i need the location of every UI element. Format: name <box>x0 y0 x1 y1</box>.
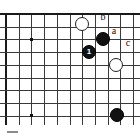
white-stone-lower[interactable] <box>109 58 123 72</box>
black-stone-move-1[interactable]: 1 <box>82 45 96 59</box>
black-stone-upper[interactable] <box>96 32 110 46</box>
grid-line-horizontal-0 <box>0 13 140 15</box>
go-board[interactable]: 1 bac <box>0 0 140 125</box>
grid-line-horizontal-6 <box>0 90 140 91</box>
grid-line-horizontal-5 <box>0 78 140 79</box>
white-stone-upper[interactable] <box>75 17 89 31</box>
star-point-upper-left <box>30 38 33 41</box>
grid-line-vertical-3 <box>44 13 45 125</box>
star-point-lower-left <box>30 114 33 117</box>
caption-rule <box>7 131 18 133</box>
grid-line-vertical-1 <box>19 13 20 125</box>
grid-line-horizontal-2 <box>0 39 140 40</box>
grid-line-vertical-10 <box>133 13 134 125</box>
grid-line-vertical-7 <box>95 13 96 125</box>
point-label-a: a <box>109 26 119 36</box>
grid-line-vertical-2 <box>31 13 32 125</box>
grid-line-horizontal-1 <box>0 27 140 28</box>
point-label-b: b <box>98 12 108 22</box>
grid-line-vertical-5 <box>70 13 71 125</box>
black-stone-move-1-label: 1 <box>83 46 95 58</box>
go-diagram: 1 bac <box>0 0 140 137</box>
grid-line-horizontal-3 <box>0 52 140 53</box>
grid-line-vertical-4 <box>57 13 58 125</box>
black-stone-bottom[interactable] <box>110 108 124 122</box>
grid-line-horizontal-7 <box>0 103 140 104</box>
grid-line-vertical-0 <box>5 13 7 125</box>
point-label-c: c <box>123 38 133 48</box>
